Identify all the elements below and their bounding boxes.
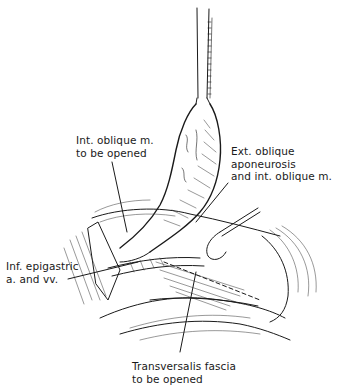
label-ext-oblique: Ext. oblique aponeurosis and int. obliqu… xyxy=(231,145,332,183)
label-transversalis-line2: to be opened xyxy=(132,373,236,386)
label-inf-epigastric: Inf. epigastric a. and vv. xyxy=(6,260,79,285)
label-transversalis-fascia: Transversalis fascia to be opened xyxy=(132,360,236,385)
wound-field xyxy=(64,200,316,340)
label-inf-epigastric-line2: a. and vv. xyxy=(6,273,79,286)
label-ext-oblique-line1: Ext. oblique xyxy=(231,145,332,158)
label-int-oblique: Int. oblique m. to be opened xyxy=(76,134,154,159)
leader-ext-oblique xyxy=(196,183,228,222)
label-int-oblique-line2: to be opened xyxy=(76,147,154,160)
label-transversalis-line1: Transversalis fascia xyxy=(132,360,236,373)
retractor-instrument xyxy=(207,208,260,259)
aponeurosis-flap xyxy=(120,104,221,262)
surgical-illustration xyxy=(0,0,337,388)
label-inf-epigastric-line1: Inf. epigastric xyxy=(6,260,79,273)
label-ext-oblique-line3: and int. oblique m. xyxy=(231,170,332,183)
label-int-oblique-line1: Int. oblique m. xyxy=(76,134,154,147)
label-ext-oblique-line2: aponeurosis xyxy=(231,158,332,171)
leader-int-oblique xyxy=(112,162,127,232)
forceps-instrument xyxy=(196,8,212,104)
